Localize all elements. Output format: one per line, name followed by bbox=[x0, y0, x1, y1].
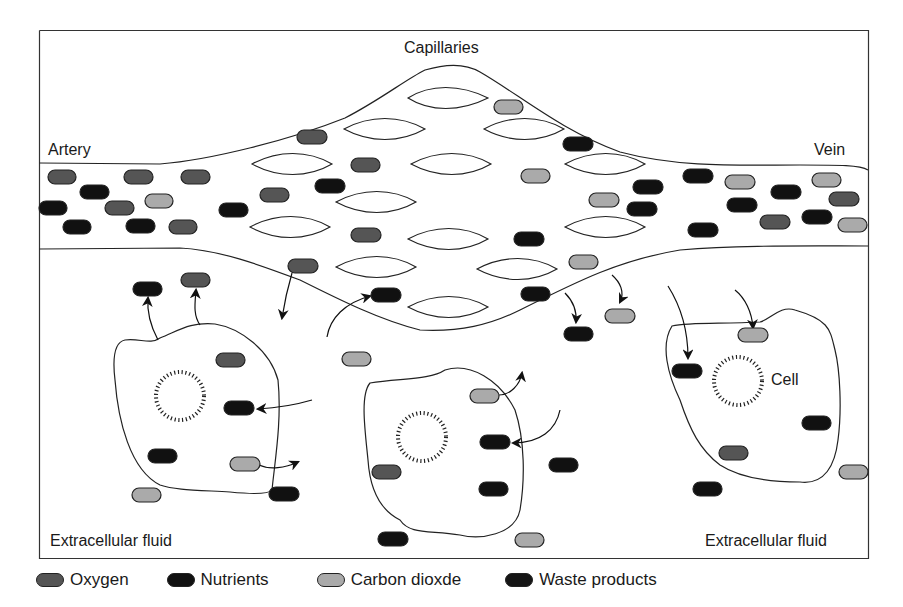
frame-border bbox=[40, 31, 869, 559]
label-vein: Vein bbox=[814, 142, 845, 158]
label-cell: Cell bbox=[771, 372, 799, 388]
legend-label: Oxygen bbox=[70, 570, 129, 590]
label-extracellular-fluid-right: Extracellular fluid bbox=[705, 533, 827, 549]
legend-label: Waste products bbox=[539, 570, 656, 590]
legend: Oxygen Nutrients Carbon dioxde Waste pro… bbox=[36, 570, 657, 590]
legend-label: Nutrients bbox=[201, 570, 269, 590]
carbon-dioxide-swatch-icon bbox=[317, 573, 345, 587]
legend-item-carbon-dioxide: Carbon dioxde bbox=[317, 570, 462, 590]
nucleus-right bbox=[714, 357, 762, 405]
capillary-exchange-diagram bbox=[0, 0, 903, 607]
oxygen-swatch-icon bbox=[36, 573, 64, 587]
nucleus-middle bbox=[398, 413, 446, 461]
legend-item-waste-products: Waste products bbox=[505, 570, 656, 590]
nutrients-swatch-icon bbox=[167, 573, 195, 587]
label-artery: Artery bbox=[48, 142, 91, 158]
label-extracellular-fluid-left: Extracellular fluid bbox=[50, 533, 172, 549]
legend-item-nutrients: Nutrients bbox=[167, 570, 269, 590]
legend-label: Carbon dioxde bbox=[351, 570, 462, 590]
legend-item-oxygen: Oxygen bbox=[36, 570, 129, 590]
label-capillaries: Capillaries bbox=[404, 40, 479, 56]
nucleus-left bbox=[156, 372, 204, 420]
red-blood-cells bbox=[250, 88, 645, 318]
waste-products-swatch-icon bbox=[505, 573, 533, 587]
cell-middle bbox=[364, 368, 523, 537]
tissue-cells bbox=[114, 309, 840, 537]
